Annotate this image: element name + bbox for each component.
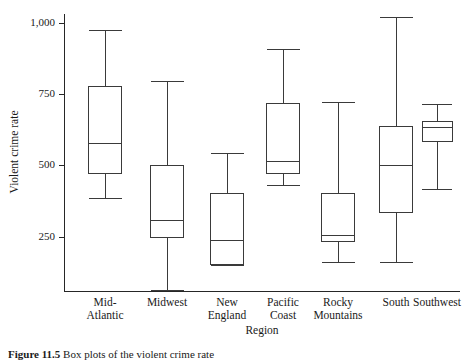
y-axis-ticks: 1,000750500250 [30,16,64,242]
category-label-line2: Coast [270,309,297,321]
category-label-line2: Mountains [313,309,363,321]
y-axis-tick-label: 750 [39,87,56,99]
box-plot-item [322,103,355,263]
box-plot-item [380,18,413,263]
x-axis-category-label: RockyMountains [313,296,363,321]
box-plot-chart: 1,000750500250 Mid-AtlanticMidwestNewEng… [0,0,466,360]
y-axis-tick-label: 1,000 [30,16,55,28]
figure-caption: Figure 11.5 Box plots of the violent cri… [8,348,458,360]
x-axis-category-label: Midwest [147,296,188,308]
figure-caption-body: Box plots of the violent crime rate [63,348,214,360]
box-iqr [211,194,244,265]
box-plot-item [422,105,452,190]
category-label-line1: Midwest [147,296,188,308]
y-axis-tick-label: 500 [39,158,56,170]
box-iqr [89,86,122,173]
box-plot-item [211,154,244,266]
x-axis-category-label: Mid-Atlantic [86,296,123,321]
box-plot-series [89,18,453,291]
category-label-line1: Southwest [413,296,462,308]
category-label-line1: Pacific [267,296,299,308]
box-plot-item [151,81,184,290]
x-axis-category-label: South [383,296,410,308]
x-axis-category-labels: Mid-AtlanticMidwestNewEnglandPacificCoas… [86,296,461,322]
category-label-line1: New [216,296,238,308]
figure-container: 1,000750500250 Mid-AtlanticMidwestNewEng… [0,0,466,360]
box-plot-item [267,50,300,186]
x-axis-category-label: Southwest [413,296,462,308]
y-axis-title: Violent crime rate [8,111,20,194]
category-label-line1: Rocky [323,296,353,309]
box-iqr [380,127,413,212]
category-label-line1: South [383,296,410,308]
box-iqr [151,166,184,238]
x-axis-category-label: NewEngland [208,296,247,322]
box-iqr [267,104,300,174]
y-axis-tick-label: 250 [39,230,56,242]
category-label-line2: England [208,309,247,322]
box-plot-item [89,30,122,198]
category-label-line1: Mid- [94,296,117,308]
x-axis-title: Region [245,324,278,337]
category-label-line2: Atlantic [86,309,123,321]
figure-caption-label: Figure 11.5 [8,348,60,360]
box-iqr [322,194,355,242]
box-iqr [422,121,452,141]
x-axis-category-label: PacificCoast [267,296,299,321]
